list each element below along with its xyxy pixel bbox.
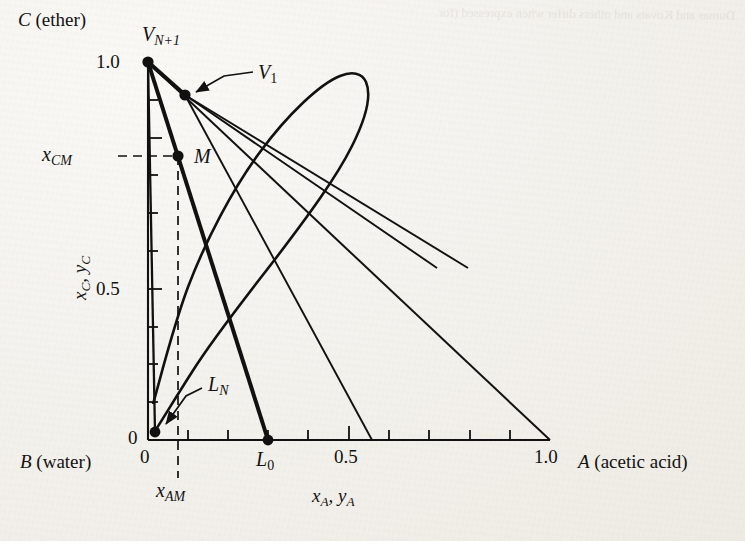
x-axis-title: xA, yA [312, 486, 355, 508]
point-label-V1: V1 [258, 62, 277, 86]
y-tick-label-0: 0 [128, 428, 138, 447]
tie-line-2 [185, 95, 468, 268]
tie-line-1 [185, 95, 437, 268]
point-marker-V1 [179, 89, 190, 100]
point-marker-VN1 [142, 56, 153, 67]
point-label-L0: L0 [256, 449, 274, 473]
vertex-label-A: A (acetic acid) [578, 452, 688, 471]
leader-arrow-V1 [196, 72, 253, 92]
vertex-label-C: C (ether) [18, 10, 86, 29]
x-tick-label-0.5: 0.5 [334, 447, 358, 466]
point-label-M: M [194, 146, 211, 166]
y-axis-title: xC, yC [70, 256, 92, 300]
construction-label-xCM: xCM [42, 144, 72, 168]
point-label-LN: LN [208, 374, 228, 398]
x-tick-label-0: 0 [140, 447, 150, 466]
x-tick-label-1.0: 1.0 [534, 447, 558, 466]
construction-label-xAM: xAM [156, 480, 185, 504]
point-marker-M [172, 150, 183, 161]
x-axis-ticks [188, 426, 510, 440]
point-marker-L0 [263, 435, 274, 446]
leader-arrows [166, 72, 253, 424]
y-tick-label-0.5: 0.5 [96, 279, 120, 298]
point-marker-LN [150, 427, 161, 438]
y-tick-label-1.0: 1.0 [96, 52, 120, 71]
point-label-VN1: VN+1 [142, 24, 180, 48]
vertex-label-B: B (water) [20, 452, 91, 471]
ternary-phase-diagram: C (ether) B (water) A (acetic acid) 1.0 … [0, 0, 745, 541]
binodal-curve [153, 73, 368, 431]
